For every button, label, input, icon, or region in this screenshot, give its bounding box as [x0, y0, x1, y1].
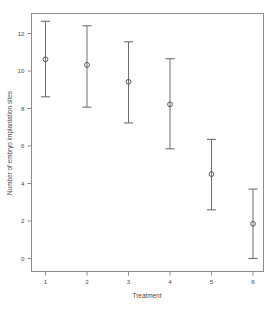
y-tick-label: 8 — [21, 105, 25, 112]
y-axis-tick-labels: 0 2 4 6 8 10 12 — [18, 30, 25, 262]
x-tick-label: 3 — [127, 278, 131, 285]
x-axis-tick-labels: 1 2 3 4 5 6 — [44, 278, 256, 285]
data-point-group-1 — [41, 21, 50, 97]
x-axis-ticks — [46, 272, 254, 276]
x-tick-label: 1 — [44, 278, 48, 285]
data-series — [41, 21, 258, 258]
x-tick-label: 6 — [251, 278, 255, 285]
y-axis-ticks — [28, 34, 32, 259]
y-tick-label: 12 — [18, 30, 25, 37]
y-tick-label: 10 — [18, 67, 25, 74]
x-axis-title: Treatment — [133, 292, 162, 299]
y-tick-label: 0 — [21, 255, 25, 262]
data-point-group-4 — [166, 59, 175, 149]
y-tick-label: 4 — [21, 180, 25, 187]
y-axis-title: Number of embryo implantation sites — [6, 91, 14, 195]
x-tick-label: 2 — [85, 278, 89, 285]
data-point-group-5 — [207, 139, 216, 209]
errorbar-plot: 0 2 4 6 8 10 12 1 2 3 4 5 6 — [0, 0, 275, 315]
chart-figure: 0 2 4 6 8 10 12 1 2 3 4 5 6 — [0, 0, 275, 315]
data-point-group-2 — [83, 26, 92, 107]
data-point-group-6 — [249, 189, 258, 258]
y-tick-label: 2 — [21, 217, 25, 224]
x-tick-label: 5 — [210, 278, 214, 285]
y-tick-label: 6 — [21, 142, 25, 149]
data-point-group-3 — [124, 42, 133, 123]
plot-frame — [32, 14, 264, 272]
x-tick-label: 4 — [168, 278, 172, 285]
